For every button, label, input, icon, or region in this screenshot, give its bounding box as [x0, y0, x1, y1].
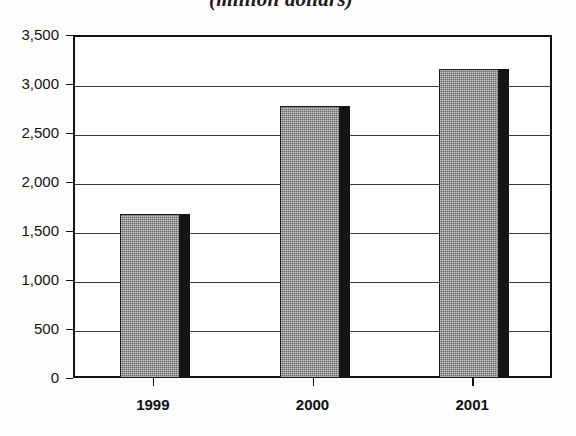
chart-title: (million dollars) [0, 0, 562, 12]
y-axis-tick [66, 84, 73, 85]
y-axis-tick [66, 231, 73, 232]
x-axis-tick [313, 378, 315, 386]
x-axis-tick [153, 378, 155, 386]
y-axis-label: 2,500 [0, 125, 59, 140]
x-axis-label-1999: 1999 [93, 397, 213, 412]
bar-shadow [498, 69, 509, 378]
bar-body [280, 106, 340, 378]
y-axis-tick [66, 133, 73, 134]
bar-2000 [280, 106, 350, 378]
bar-body [439, 69, 499, 378]
y-axis-tick [66, 280, 73, 281]
bar-body [120, 214, 180, 378]
y-axis-label: 1,500 [0, 223, 59, 238]
bar-1999 [120, 214, 190, 378]
y-axis-tick [66, 35, 73, 36]
y-axis-tick [66, 378, 73, 379]
y-axis-label: 500 [0, 321, 59, 336]
x-axis-tick [472, 378, 474, 386]
y-axis-label: 3,000 [0, 76, 59, 91]
y-axis-label: 2,000 [0, 174, 59, 189]
x-axis-label-2000: 2000 [253, 397, 373, 412]
y-axis-label: 0 [0, 370, 59, 385]
y-axis-label: 3,500 [0, 27, 59, 42]
bar-chart: (million dollars) 3,5003,0002,5002,0001,… [0, 0, 576, 436]
bar-2001 [439, 69, 509, 378]
y-axis-tick [66, 182, 73, 183]
bar-shadow [339, 106, 350, 378]
bar-shadow [179, 214, 190, 378]
y-axis-label: 1,000 [0, 272, 59, 287]
x-axis-label-2001: 2001 [412, 397, 532, 412]
y-axis-tick [66, 329, 73, 330]
